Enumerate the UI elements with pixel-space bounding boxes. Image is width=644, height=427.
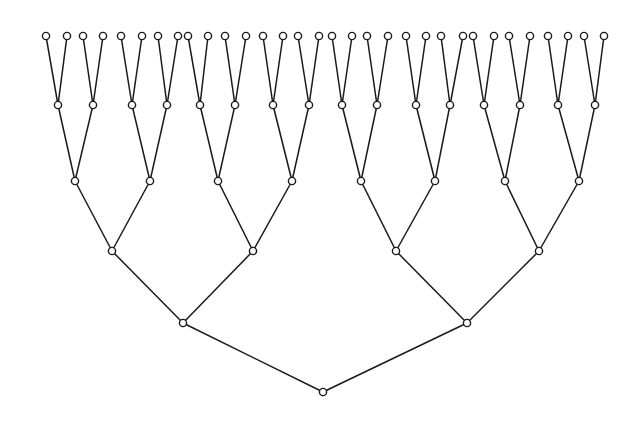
tree-edge <box>273 105 292 181</box>
leaf-node <box>580 32 587 39</box>
tree-node <box>591 101 598 108</box>
tree-node <box>231 101 238 108</box>
tree-edge <box>595 36 604 105</box>
tree-edge <box>253 181 292 251</box>
tree-edge <box>188 36 200 105</box>
leaf-node <box>99 32 106 39</box>
leaf-node <box>279 32 286 39</box>
tree-node <box>373 101 380 108</box>
tree-edge <box>150 105 167 181</box>
tree-edge <box>263 36 273 105</box>
tree-edge <box>225 36 235 105</box>
tree-edge <box>558 36 568 105</box>
tree-edge <box>416 36 426 105</box>
tree-edge <box>579 105 595 181</box>
tree-edge <box>548 36 558 105</box>
tree-edge <box>200 36 208 105</box>
leaf-node <box>154 32 161 39</box>
leaf-node <box>259 32 266 39</box>
tree-edge <box>539 181 579 251</box>
leaf-node <box>564 32 571 39</box>
tree-node <box>288 177 295 184</box>
tree-node <box>412 101 419 108</box>
tree-edge <box>183 323 323 392</box>
tree-node <box>196 101 203 108</box>
tree-edge <box>218 105 235 181</box>
tree-node <box>516 101 523 108</box>
tree-edge <box>167 36 178 105</box>
leaf-node <box>526 32 533 39</box>
tree-edge <box>342 105 361 181</box>
tree-node <box>89 101 96 108</box>
tree-edge <box>505 181 539 251</box>
tree-edge <box>112 251 183 323</box>
tree-edge <box>416 105 435 181</box>
tree-node <box>128 101 135 108</box>
tree-edge <box>406 36 416 105</box>
tree-edge <box>58 105 75 181</box>
tree-edge <box>200 105 218 181</box>
leaf-node <box>437 32 444 39</box>
leaf-node <box>600 32 607 39</box>
leaf-node <box>294 32 301 39</box>
tree-edge <box>112 181 150 251</box>
tree-edge <box>235 36 246 105</box>
tree-edge <box>132 36 142 105</box>
tree-edges <box>46 36 604 392</box>
tree-edge <box>309 36 319 105</box>
tree-node <box>357 177 364 184</box>
binary-tree-diagram <box>0 0 644 427</box>
tree-node <box>163 101 170 108</box>
tree-edge <box>75 105 93 181</box>
tree-edge <box>132 105 150 181</box>
tree-edge <box>183 251 253 323</box>
tree-node <box>249 247 256 254</box>
tree-edge <box>218 181 253 251</box>
tree-node <box>146 177 153 184</box>
tree-edge <box>158 36 167 105</box>
tree-edge <box>332 36 342 105</box>
leaf-node <box>315 32 322 39</box>
leaf-node <box>138 32 145 39</box>
tree-edge <box>467 251 539 323</box>
tree-edge <box>367 36 377 105</box>
tree-edge <box>361 181 396 251</box>
tree-edge <box>509 36 520 105</box>
leaf-node <box>469 32 476 39</box>
leaf-node <box>422 32 429 39</box>
tree-edge <box>93 36 103 105</box>
root-node <box>319 388 326 395</box>
tree-edge <box>505 105 520 181</box>
tree-node <box>554 101 561 108</box>
leaf-node <box>174 32 181 39</box>
tree-edge <box>361 105 377 181</box>
tree-node <box>214 177 221 184</box>
tree-edge <box>273 36 283 105</box>
leaf-node <box>544 32 551 39</box>
tree-node <box>179 319 186 326</box>
leaf-node <box>402 32 409 39</box>
leaf-node <box>348 32 355 39</box>
leaf-node <box>204 32 211 39</box>
leaf-node <box>363 32 370 39</box>
leaf-node <box>505 32 512 39</box>
leaf-node <box>79 32 86 39</box>
leaf-node <box>328 32 335 39</box>
tree-edge <box>441 36 450 105</box>
tree-node <box>463 319 470 326</box>
tree-edge <box>298 36 309 105</box>
leaf-node <box>184 32 191 39</box>
tree-edge <box>584 36 595 105</box>
tree-edge <box>83 36 93 105</box>
tree-edge <box>58 36 67 105</box>
leaf-node <box>490 32 497 39</box>
tree-node <box>54 101 61 108</box>
tree-edge <box>342 36 352 105</box>
tree-node <box>269 101 276 108</box>
tree-edge <box>121 36 132 105</box>
tree-edge <box>520 36 530 105</box>
tree-edge <box>435 105 450 181</box>
tree-edge <box>558 105 579 181</box>
tree-edge <box>292 105 309 181</box>
leaf-node <box>459 32 466 39</box>
